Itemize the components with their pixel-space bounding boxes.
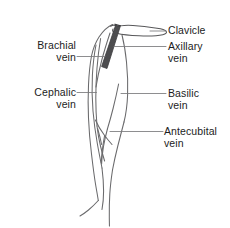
label-basilic-vein-line2: vein: [168, 100, 199, 112]
label-antecubital-vein-line2: vein: [164, 138, 217, 150]
label-cephalic-vein-line1: Cephalic: [10, 87, 76, 99]
vein-anatomy-diagram: Brachial vein Cephalic vein Clavicle Axi…: [0, 0, 230, 228]
label-basilic-vein: Basilic vein: [168, 88, 199, 111]
label-antecubital-vein-line1: Antecubital: [164, 126, 217, 138]
label-axillary-vein-line1: Axillary: [168, 41, 203, 53]
label-clavicle: Clavicle: [168, 25, 206, 37]
label-basilic-vein-line1: Basilic: [168, 88, 199, 100]
label-clavicle-line1: Clavicle: [168, 25, 206, 37]
arm-outline: [80, 25, 128, 227]
label-axillary-vein-line2: vein: [168, 53, 203, 65]
label-brachial-vein-line2: vein: [10, 52, 76, 64]
label-antecubital-vein: Antecubital vein: [164, 126, 217, 149]
label-brachial-vein-line1: Brachial: [10, 40, 76, 52]
label-brachial-vein: Brachial vein: [10, 40, 76, 63]
label-axillary-vein: Axillary vein: [168, 41, 203, 64]
label-cephalic-vein-line2: vein: [10, 99, 76, 111]
leader-lines: [77, 31, 166, 132]
label-cephalic-vein: Cephalic vein: [10, 87, 76, 110]
